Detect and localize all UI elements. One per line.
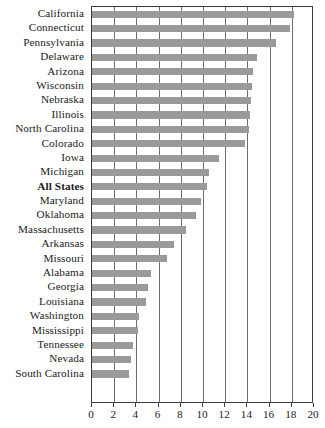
axis-tick-label: 8 <box>177 408 183 420</box>
bar <box>92 54 257 61</box>
category-label: Missouri <box>0 251 88 265</box>
axis-tick-label: 12 <box>219 408 230 420</box>
category-label: Washington <box>0 308 88 322</box>
bar-row <box>92 122 312 136</box>
category-label: Iowa <box>0 150 88 164</box>
category-label: South Carolina <box>0 366 88 380</box>
bar-row <box>92 352 312 366</box>
axis-tick-label: 14 <box>241 408 252 420</box>
bar <box>92 169 209 176</box>
bar-row <box>92 237 312 251</box>
bar-row <box>92 108 312 122</box>
category-label: Delaware <box>0 49 88 63</box>
bar <box>92 298 146 305</box>
bar <box>92 284 148 291</box>
bar-row <box>92 295 312 309</box>
axis-tick-label: 20 <box>307 408 318 420</box>
category-label: Louisiana <box>0 294 88 308</box>
axis-tick-label: 18 <box>285 408 296 420</box>
bar <box>92 155 219 162</box>
category-label-column: CaliforniaConnecticutPennsylvaniaDelawar… <box>0 6 88 380</box>
bar-row <box>92 223 312 237</box>
bar <box>92 97 251 104</box>
bar <box>92 356 131 363</box>
bar <box>92 140 245 147</box>
axis-tick <box>180 403 181 407</box>
category-label: Alabama <box>0 265 88 279</box>
bar-row <box>92 137 312 151</box>
bar <box>92 270 151 277</box>
category-label: Arizona <box>0 64 88 78</box>
bar-row <box>92 367 312 381</box>
category-label: Michigan <box>0 164 88 178</box>
bar <box>92 111 250 118</box>
bar-row <box>92 151 312 165</box>
bar <box>92 342 133 349</box>
bar <box>92 39 276 46</box>
category-label: Georgia <box>0 279 88 293</box>
bar <box>92 226 186 233</box>
axis-tick <box>291 403 292 407</box>
axis-tick-label: 10 <box>196 408 207 420</box>
bar-chart: CaliforniaConnecticutPennsylvaniaDelawar… <box>0 0 325 428</box>
axis-tick <box>135 403 136 407</box>
axis-tick-label: 0 <box>88 408 94 420</box>
bar <box>92 126 249 133</box>
x-axis: 02468101214161820 <box>91 403 313 428</box>
bar-row <box>92 309 312 323</box>
bar <box>92 68 253 75</box>
axis-tick <box>246 403 247 407</box>
category-label: North Carolina <box>0 121 88 135</box>
axis-tick <box>113 403 114 407</box>
axis-tick <box>202 403 203 407</box>
bar <box>92 11 294 18</box>
axis-tick <box>269 403 270 407</box>
bar-row <box>92 324 312 338</box>
axis-tick-label: 16 <box>263 408 274 420</box>
category-label: Maryland <box>0 193 88 207</box>
axis-tick <box>91 403 92 407</box>
plot-area <box>91 6 313 403</box>
category-label: Massachusetts <box>0 222 88 236</box>
bar <box>92 212 196 219</box>
axis-tick <box>224 403 225 407</box>
bar <box>92 255 167 262</box>
bar <box>92 83 252 90</box>
bar <box>92 183 207 190</box>
bar-row <box>92 194 312 208</box>
bar <box>92 25 290 32</box>
category-label: Oklahoma <box>0 207 88 221</box>
category-label: Arkansas <box>0 236 88 250</box>
bar-row <box>92 7 312 21</box>
bar-series <box>92 7 312 402</box>
bar <box>92 370 129 377</box>
bar-row <box>92 180 312 194</box>
category-label: Colorado <box>0 136 88 150</box>
axis-tick-label: 2 <box>110 408 116 420</box>
bar-row <box>92 36 312 50</box>
category-label: All States <box>0 179 88 193</box>
bar-row <box>92 280 312 294</box>
bar-row <box>92 338 312 352</box>
category-label: Tennessee <box>0 337 88 351</box>
bar-row <box>92 266 312 280</box>
bar-row <box>92 165 312 179</box>
bar <box>92 198 201 205</box>
bar-row <box>92 93 312 107</box>
axis-tick <box>158 403 159 407</box>
category-label: Nebraska <box>0 92 88 106</box>
category-label: Wisconsin <box>0 78 88 92</box>
axis-tick-label: 6 <box>155 408 161 420</box>
category-label: Mississippi <box>0 323 88 337</box>
bar <box>92 327 138 334</box>
bar-row <box>92 65 312 79</box>
bar-row <box>92 79 312 93</box>
category-label: Connecticut <box>0 20 88 34</box>
category-label: California <box>0 6 88 20</box>
axis-tick-label: 4 <box>133 408 139 420</box>
category-label: Pennsylvania <box>0 35 88 49</box>
bar-row <box>92 21 312 35</box>
category-label: Nevada <box>0 351 88 365</box>
axis-tick <box>313 403 314 407</box>
bar-row <box>92 252 312 266</box>
